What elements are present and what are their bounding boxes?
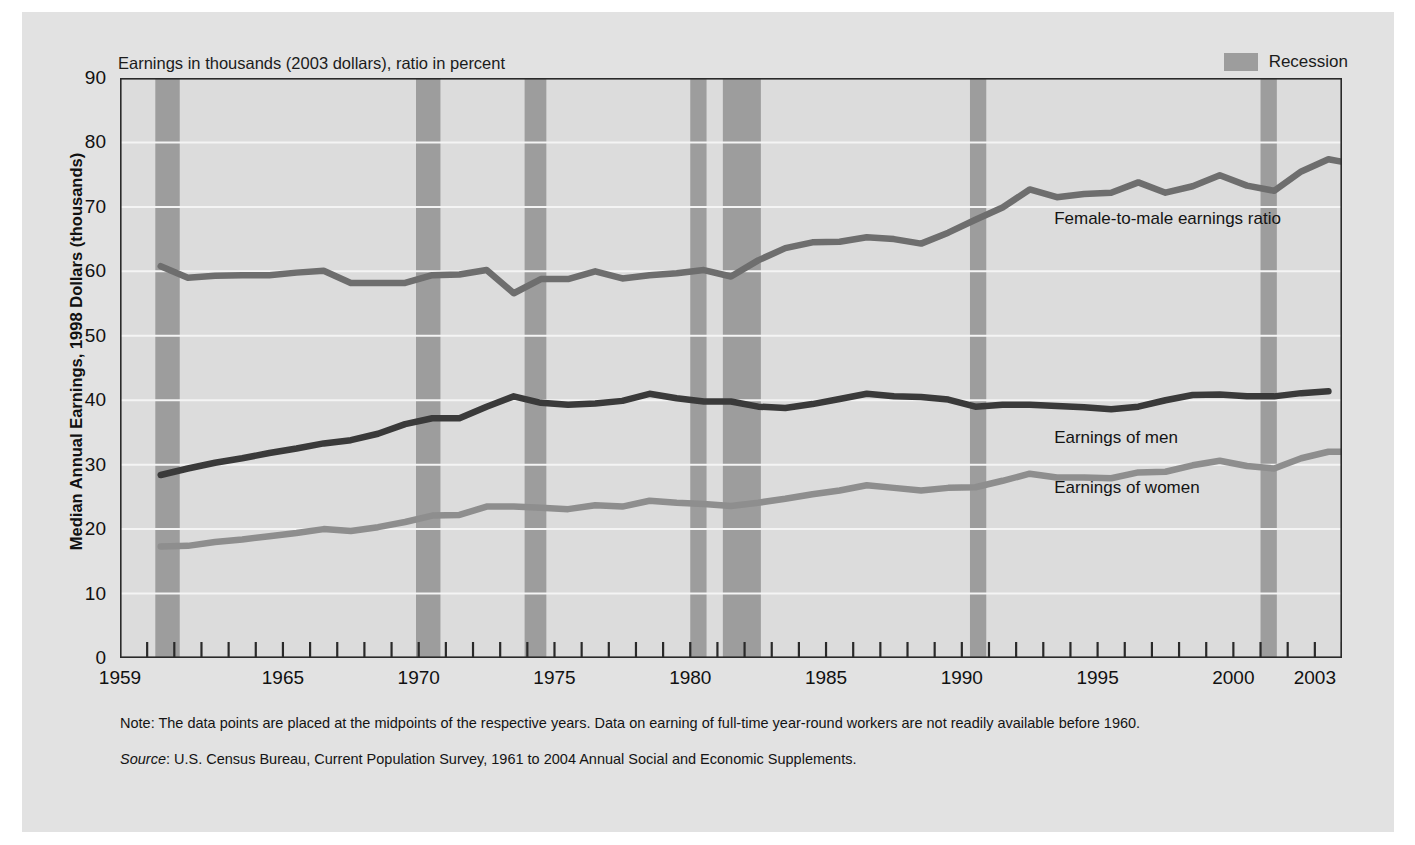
footnote-source-word: Source xyxy=(120,751,166,767)
recession-band xyxy=(525,78,547,658)
series-annotation: Female-to-male earnings ratio xyxy=(1054,209,1281,229)
y-axis-title: Median Annual Earnings, 1998 Dollars (th… xyxy=(67,52,86,652)
recession-band xyxy=(155,78,179,658)
chart-legend: Recession xyxy=(1224,52,1348,72)
plot-area xyxy=(120,78,1342,658)
legend-label-recession: Recession xyxy=(1269,52,1348,72)
x-tick-label: 1959 xyxy=(99,667,141,689)
recession-band xyxy=(970,78,986,658)
x-tick-label: 1990 xyxy=(941,667,983,689)
x-axis-tick-labels: 1959196519701975198019851990199520002003 xyxy=(120,667,1342,697)
series-annotation: Earnings of women xyxy=(1054,478,1200,498)
x-tick-label: 1975 xyxy=(533,667,575,689)
recession-band xyxy=(1261,78,1277,658)
chart-units-label: Earnings in thousands (2003 dollars), ra… xyxy=(118,54,505,73)
recession-band xyxy=(690,78,706,658)
x-tick-label: 1995 xyxy=(1076,667,1118,689)
x-tick-label: 2003 xyxy=(1294,667,1336,689)
x-tick-label: 1980 xyxy=(669,667,711,689)
series-annotation: Earnings of men xyxy=(1054,428,1178,448)
recession-band xyxy=(723,78,761,658)
footnote-source: Source: U.S. Census Bureau, Current Popu… xyxy=(120,748,1350,770)
x-tick-label: 1970 xyxy=(398,667,440,689)
x-tick-label: 2000 xyxy=(1212,667,1254,689)
chart-figure: Earnings in thousands (2003 dollars), ra… xyxy=(22,12,1394,832)
x-tick-label: 1985 xyxy=(805,667,847,689)
footnote-source-text: : U.S. Census Bureau, Current Population… xyxy=(166,751,857,767)
recession-swatch-icon xyxy=(1224,53,1258,71)
x-tick-label: 1965 xyxy=(262,667,304,689)
recession-band xyxy=(416,78,440,658)
footnote-note: Note: The data points are placed at the … xyxy=(120,712,1350,734)
chart-footnotes: Note: The data points are placed at the … xyxy=(120,712,1350,771)
chart-svg xyxy=(120,78,1342,658)
